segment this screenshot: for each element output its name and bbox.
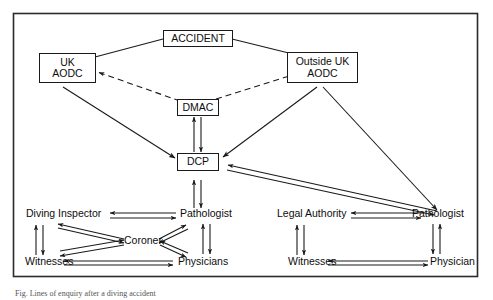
node-coroner-label: Coroner [124, 234, 162, 246]
node-diving-inspector-label: Diving Inspector [26, 207, 101, 219]
node-legal-authority[interactable]: Legal Authority [277, 208, 355, 219]
node-uk-aodc-label-line2: AODC [52, 68, 82, 79]
node-physician-label: Physician [430, 255, 475, 267]
node-pathologist-right[interactable]: Pathologist [412, 208, 476, 219]
node-dmac-label: DMAC [183, 102, 214, 113]
node-physician[interactable]: Physician [430, 256, 490, 267]
node-witnesses-left[interactable]: Witnesses [25, 256, 83, 267]
node-outside-uk-aodc-label-line2: AODC [307, 68, 337, 79]
edge-accident-uk-aodc [95, 39, 163, 57]
edge-diving-inspector-coroner [58, 228, 124, 243]
node-pathologist-left-label: Pathologist [180, 207, 232, 219]
node-witnesses-right[interactable]: Witnesses [288, 256, 346, 267]
node-dcp-label: DCP [187, 156, 209, 167]
node-physicians[interactable]: Physicians [178, 256, 242, 267]
node-witnesses-left-label: Witnesses [25, 255, 73, 267]
node-pathologist-left[interactable]: Pathologist [180, 208, 244, 219]
node-witnesses-right-label: Witnesses [288, 255, 336, 267]
node-outside-uk-aodc[interactable]: Outside UK AODC [287, 52, 358, 83]
node-legal-authority-label: Legal Authority [277, 207, 346, 219]
node-dcp[interactable]: DCP [177, 153, 219, 171]
diagram-figure: ACCIDENT UK AODC Outside UK AODC DMAC DC… [0, 0, 493, 300]
edge-outside-uk-aodc-dcp [223, 87, 317, 157]
edge-outside-uk-aodc-pathologist-right [323, 87, 437, 210]
node-coroner[interactable]: Coroner [124, 235, 174, 246]
figure-caption: Fig. Lines of enquiry after a diving acc… [15, 289, 156, 298]
edge-witnesses-coroner [60, 240, 124, 251]
diagram-canvas [0, 0, 493, 300]
node-diving-inspector[interactable]: Diving Inspector [26, 208, 110, 219]
edge-dmac-uk-aodc [99, 73, 180, 102]
node-outside-uk-aodc-label-line1: Outside UK [296, 56, 350, 67]
edge-coroner-diving-inspector [58, 224, 124, 239]
edge-dcp-pathologist-right-in [228, 165, 437, 211]
node-dmac[interactable]: DMAC [177, 99, 219, 116]
node-accident-label: ACCIDENT [171, 33, 225, 44]
node-uk-aodc[interactable]: UK AODC [39, 53, 96, 83]
node-accident[interactable]: ACCIDENT [163, 30, 233, 47]
node-physicians-label: Physicians [178, 255, 228, 267]
edge-uk-aodc-dcp [63, 87, 175, 158]
node-pathologist-right-label: Pathologist [412, 207, 464, 219]
